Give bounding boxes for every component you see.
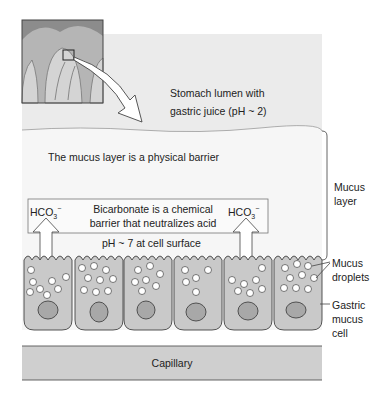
- mucus-droplets-label-line2: droplets: [332, 270, 369, 284]
- hco3-label-right: HCO3−: [228, 202, 259, 224]
- mucus-droplets-label-line1: Mucus: [332, 256, 369, 270]
- bicarbonate-label: Bicarbonate is a chemical barrier that n…: [88, 202, 218, 230]
- mucus-layer-label-line1: Mucus: [334, 180, 365, 194]
- gastric-cell-label-line3: cell: [332, 326, 365, 340]
- hco3-label-left: HCO3−: [30, 202, 61, 224]
- ph-surface-label: pH ~ 7 at cell surface: [102, 236, 201, 250]
- diagram-canvas: [0, 0, 389, 396]
- gastric-cell-label: Gastric mucus cell: [332, 298, 365, 340]
- mucus-droplets-label: Mucus droplets: [332, 256, 369, 284]
- gastric-cell-label-line2: mucus: [332, 312, 365, 326]
- lumen-label: Stomach lumen with gastric juice (pH ~ 2…: [170, 86, 267, 118]
- mucus-layer-bracket: [322, 131, 327, 260]
- lumen-label-line1: Stomach lumen with: [170, 86, 267, 100]
- bicarbonate-label-line1: Bicarbonate is a chemical: [88, 202, 218, 216]
- stomach-inset-illustration: [22, 20, 103, 103]
- mucus-layer-label: Mucus layer: [334, 180, 365, 208]
- bicarbonate-label-line2: barrier that neutralizes acid: [88, 216, 218, 230]
- gastric-cell-label-line1: Gastric: [332, 298, 365, 312]
- capillary-label: Capillary: [22, 356, 322, 370]
- mucus-layer-label-line2: layer: [334, 194, 365, 208]
- lumen-label-line2: gastric juice (pH ~ 2): [170, 104, 267, 118]
- mucus-barrier-label: The mucus layer is a physical barrier: [48, 150, 219, 164]
